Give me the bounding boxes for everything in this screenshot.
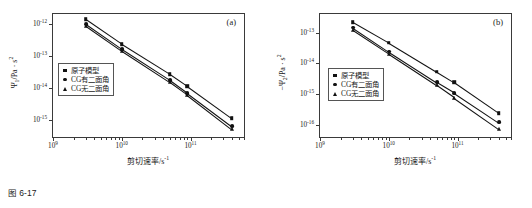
data-point-square [168, 72, 172, 76]
x-minor-tick [232, 137, 233, 140]
x-minor-tick [223, 137, 224, 140]
y-tick [316, 63, 320, 64]
y-tick-label: 10-15 [33, 116, 47, 124]
x-minor-tick [454, 137, 455, 140]
legend-item: 原子模型 [332, 71, 379, 80]
series-line [85, 20, 122, 46]
x-minor-tick [353, 137, 354, 140]
x-minor-tick [111, 137, 112, 140]
triangle-marker-icon [332, 92, 338, 96]
x-minor-tick [511, 137, 512, 140]
circle-marker-icon [62, 78, 68, 82]
chart-panel-b: (b) 1091010101110-1310-1410-1510-16 剪切速率… [266, 0, 532, 182]
y-tick-label: 10-13 [33, 52, 47, 60]
y-tick-label: 10-15 [300, 90, 314, 98]
x-minor-tick [142, 137, 143, 140]
x-axis-title-b: 剪切速率/s-1 [394, 155, 436, 166]
circle-marker-icon [332, 83, 338, 87]
x-minor-tick [163, 137, 164, 140]
x-minor-tick [490, 137, 491, 140]
data-point-square [453, 81, 457, 85]
x-minor-tick [94, 137, 95, 140]
x-minor-tick [378, 137, 379, 140]
data-point-circle [452, 91, 456, 95]
x-minor-tick [106, 137, 107, 140]
y-tick [49, 120, 53, 121]
x-tick-label: 1010 [383, 142, 395, 150]
x-tick-label: 1011 [451, 142, 463, 150]
x-minor-tick [187, 137, 188, 140]
series-line [352, 30, 389, 55]
x-minor-tick [341, 137, 342, 140]
x-minor-tick [184, 137, 185, 140]
data-point-square [84, 18, 88, 22]
x-minor-tick [119, 137, 120, 140]
y-tick [49, 56, 53, 57]
legend-item: CG有二面角 [62, 75, 109, 84]
x-minor-tick [430, 137, 431, 140]
legend-label: CG无二面角 [71, 84, 109, 93]
x-minor-tick [382, 137, 383, 140]
series-line [187, 95, 232, 130]
x-axis-title-a: 剪切速率/s-1 [127, 155, 169, 166]
x-minor-tick [239, 137, 240, 140]
legend-a: 原子模型 CG有二面角 CG无二面角 [58, 63, 114, 96]
legend-item: CG有二面角 [332, 80, 379, 89]
legend-label: CG有二面角 [341, 80, 379, 89]
y-tick-label: 10-12 [33, 20, 47, 28]
y-tick-label: 10-16 [300, 121, 314, 129]
series-line [454, 98, 499, 130]
data-point-triangle [230, 127, 234, 131]
data-point-triangle [435, 83, 439, 87]
data-point-square [230, 116, 234, 120]
y-tick-label: 10-13 [300, 29, 314, 37]
x-minor-tick [451, 137, 452, 140]
chart-panel-a: (a) 1091010101110-1210-1310-1410-15 剪切速率… [0, 0, 266, 182]
data-point-triangle [452, 95, 456, 99]
data-point-square [120, 42, 124, 46]
data-point-triangle [120, 49, 124, 53]
figure-container: (a) 1091010101110-1210-1310-1410-15 剪切速率… [0, 0, 532, 182]
figure-caption: 图 6-17 [8, 186, 36, 198]
panel-label-a: (a) [227, 17, 236, 27]
data-point-triangle [497, 127, 501, 131]
x-minor-tick [422, 137, 423, 140]
legend-label: CG有二面角 [71, 75, 109, 84]
x-minor-tick [447, 137, 448, 140]
series-line [187, 93, 232, 127]
data-point-triangle [185, 92, 189, 96]
data-point-triangle [84, 24, 88, 28]
x-minor-tick [175, 137, 176, 140]
y-tick [316, 125, 320, 126]
x-minor-tick [437, 137, 438, 140]
x-minor-tick [170, 137, 171, 140]
y-axis-title-b: −Ψ2/Pa · s2 [278, 43, 287, 103]
legend-label: CG无二面角 [341, 89, 379, 98]
legend-item: 原子模型 [62, 66, 109, 75]
y-tick [49, 88, 53, 89]
legend-b: 原子模型 CG有二面角 CG无二面角 [328, 68, 384, 101]
y-tick [316, 94, 320, 95]
data-point-square [351, 20, 355, 24]
x-minor-tick [373, 137, 374, 140]
data-point-square [186, 84, 190, 88]
y-axis-title-a: Ψ1/Pa · s2 [10, 43, 19, 103]
x-minor-tick [386, 137, 387, 140]
legend-label: 原子模型 [71, 66, 99, 75]
x-tick [53, 137, 54, 141]
y-tick-label: 10-14 [33, 84, 47, 92]
y-tick [49, 24, 53, 25]
x-minor-tick [211, 137, 212, 140]
x-minor-tick [361, 137, 362, 140]
x-minor-tick [86, 137, 87, 140]
x-minor-tick [155, 137, 156, 140]
data-point-triangle [387, 52, 391, 56]
x-tick-label: 1011 [184, 142, 196, 150]
x-minor-tick [74, 137, 75, 140]
series-line [121, 44, 170, 75]
x-minor-tick [499, 137, 500, 140]
x-minor-tick [244, 137, 245, 140]
x-minor-tick [180, 137, 181, 140]
x-minor-tick [368, 137, 369, 140]
data-point-square [387, 41, 391, 45]
